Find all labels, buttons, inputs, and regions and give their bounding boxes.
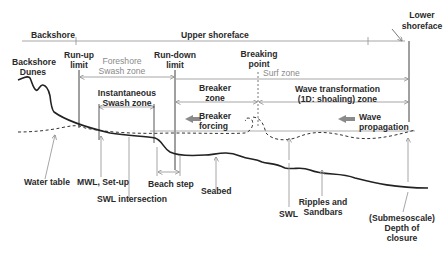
breaker-zone-label-1: Breaker <box>190 83 240 93</box>
ripples-sandbars-label-1: Ripples and <box>298 197 348 207</box>
wave-transform-label-2: (1D: shoaling) zone <box>285 94 390 104</box>
foreshore-label-1: Foreshore <box>96 56 148 66</box>
swl-intersection-label: SWL intersection <box>97 194 167 204</box>
runup-limit-label-1: Run-up <box>58 50 100 60</box>
rundown-limit-label-2: limit <box>150 60 200 70</box>
foreshore-label-2: Swash zone <box>96 66 148 76</box>
depth-of-closure-label-1: (Submesoscale) <box>367 213 437 223</box>
wave-propagation-arrow-icon <box>338 115 355 123</box>
wave-propagation-label-1: Wave <box>359 112 381 122</box>
surf-zone-label: Surf zone <box>263 68 300 78</box>
breaker-forcing-label-2: forcing <box>199 121 228 131</box>
seabed-label: Seabed <box>201 186 232 196</box>
mwl-setup-label: MWL, Set-up <box>77 177 129 187</box>
ripples-sandbars-label-2: Sandbars <box>298 207 348 217</box>
rundown-limit-label-1: Run-down <box>150 50 200 60</box>
breaker-zone-label-2: zone <box>190 93 240 103</box>
runup-limit-label-2: limit <box>58 60 100 70</box>
lower-shoreface-label-1: Lower <box>397 10 446 20</box>
swl-label: SWL <box>279 209 298 219</box>
instantaneous-swash-label-1: Instantaneous <box>95 88 159 98</box>
beach-step-label: Beach step <box>148 179 194 189</box>
backshore-dunes-label-2: Dunes <box>12 67 54 77</box>
wave-propagation-label-2: propagation <box>359 122 409 132</box>
depth-of-closure-label-3: closure <box>367 233 437 243</box>
backshore-label: Backshore <box>31 30 75 40</box>
breaking-point-label-1: Breaking <box>237 49 281 59</box>
instantaneous-swash-label-2: Swash zone <box>95 98 159 108</box>
breaker-forcing-label-1: Breaker <box>199 111 231 121</box>
lower-shoreface-label-2: shoreface <box>397 21 446 31</box>
upper-shoreface-label: Upper shoreface <box>155 30 275 40</box>
wave-transform-label-1: Wave transformation <box>285 84 390 94</box>
water-table-label: Water table <box>24 177 70 187</box>
depth-of-closure-label-2: Depth of <box>367 223 437 233</box>
backshore-dunes-label-1: Backshore <box>12 57 54 67</box>
